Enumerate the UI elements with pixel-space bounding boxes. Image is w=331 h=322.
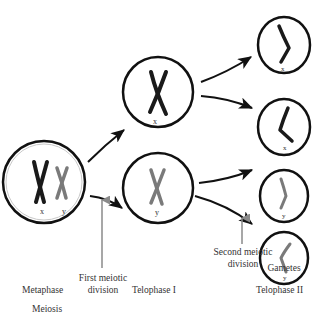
- stage-label-metaphase: Metaphase: [22, 284, 63, 296]
- metaphase-cell: x y: [3, 141, 85, 223]
- arrow-to-gamete-4: [195, 196, 252, 224]
- gamete-3: y: [260, 170, 308, 222]
- svg-text:x: x: [153, 117, 157, 126]
- svg-text:x: x: [283, 144, 287, 152]
- gamete-2: x: [258, 99, 310, 155]
- x-label: x: [40, 207, 44, 216]
- gamete-1: x: [258, 17, 310, 73]
- arrow-to-telophase1-bottom: [90, 196, 122, 208]
- svg-text:y: y: [155, 208, 159, 217]
- telophase1-bottom-cell: y: [123, 153, 193, 223]
- telophase1-top-cell: x: [123, 57, 193, 127]
- arrow-to-gamete-1: [201, 57, 251, 82]
- first-division-line2: division: [70, 284, 136, 296]
- arrow-to-gamete-3: [199, 170, 252, 183]
- first-division-line1: First meiotic: [70, 272, 136, 284]
- y-label: y: [62, 207, 66, 216]
- diagram-title: Meiosis: [32, 303, 62, 315]
- svg-text:x: x: [281, 65, 285, 73]
- stage-label-telophase-1: Telophase I: [132, 284, 176, 296]
- arrow-to-telophase1-top: [88, 130, 124, 162]
- svg-text:y: y: [283, 274, 287, 282]
- second-division-line1: Second meiotic: [205, 246, 281, 258]
- arrow-to-gamete-2: [201, 96, 252, 108]
- svg-text:y: y: [282, 212, 286, 220]
- stage-label-telophase-2: Telophase II: [256, 284, 303, 296]
- first-division-label: First meiotic division: [70, 272, 136, 296]
- gametes-label: Gametes: [258, 262, 310, 274]
